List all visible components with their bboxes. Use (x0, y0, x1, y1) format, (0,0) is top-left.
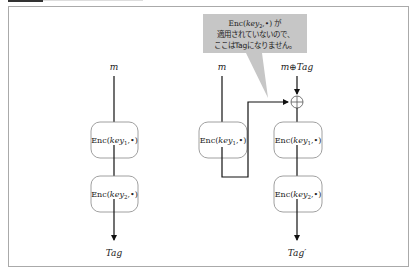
enc-key2-label: Enc(key2,•) (275, 190, 322, 200)
left-output-label: Tag (106, 248, 123, 258)
callout-line-3: ここはTagになりません。 (214, 41, 297, 50)
enc-key1-label: Enc(key1,•) (91, 136, 138, 146)
callout-line-2: 適用されていないので、 (217, 29, 294, 39)
left-input-label: m (110, 62, 119, 72)
diagram-canvas: m Enc(key1,•) Enc(key2,•) Tag m Enc(key1… (0, 0, 414, 277)
middle-column: m Enc(key1,•) (199, 62, 288, 177)
xor-icon (291, 96, 303, 108)
right-output-label: Tag′ (288, 248, 306, 258)
enc-key1-label: Enc(key1,•) (275, 136, 322, 146)
right-column: m⊕Tag Enc(key1,•) Enc(key2,•) Tag′ (274, 62, 322, 258)
right-input-label: m⊕Tag (281, 62, 314, 72)
left-column: m Enc(key1,•) Enc(key2,•) Tag (91, 62, 138, 258)
callout: Enc(key2,•) が 適用されていないので、 ここはTagになりません。 (203, 14, 307, 98)
callout-line-1: Enc(key2,•) が (229, 18, 283, 29)
enc-key1-label: Enc(key1,•) (200, 136, 247, 146)
middle-input-label: m (218, 62, 227, 72)
enc-key2-label: Enc(key2,•) (91, 190, 138, 200)
